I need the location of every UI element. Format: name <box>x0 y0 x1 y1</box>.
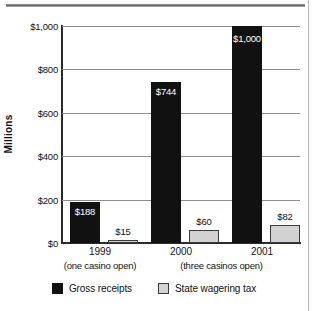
gridline-600 <box>62 113 300 114</box>
y-tick-200: $200 <box>2 194 58 205</box>
gridline-1000 <box>62 26 300 27</box>
y-tick-0: $0 <box>2 238 58 249</box>
x-sublabel-one-casino: (one casino open) <box>62 260 138 271</box>
y-tick-800: $800 <box>2 64 58 75</box>
bar-label-state-wagering-tax-2001: $82 <box>270 211 300 222</box>
gray-square-swatch-icon <box>158 283 169 294</box>
bar-state-wagering-tax-1999 <box>108 240 138 243</box>
bar-label-state-wagering-tax-1999: $15 <box>108 226 138 237</box>
page-top-rule <box>6 4 305 7</box>
page-right-border <box>308 0 309 311</box>
y-tick-400: $400 <box>2 151 58 162</box>
bar-state-wagering-tax-2000 <box>189 230 219 243</box>
x-category-1999: 1999 <box>62 246 138 257</box>
bar-gross-receipts-2000 <box>151 82 181 243</box>
bar-gross-receipts-2001 <box>232 26 262 243</box>
black-square-swatch-icon <box>52 283 63 294</box>
x-sublabel-three-casinos: (three casinos open) <box>143 260 300 271</box>
plot-area: $188 $15 $744 $60 $1,000 $82 <box>62 26 300 243</box>
chart-legend: Gross receipts State wagering tax <box>0 283 308 294</box>
y-tick-1000: $1,000 <box>2 21 58 32</box>
bar-label-gross-receipts-1999: $188 <box>70 206 100 217</box>
bar-label-gross-receipts-2000: $744 <box>151 86 181 97</box>
legend-item-gross-receipts: Gross receipts <box>52 283 132 294</box>
bar-label-gross-receipts-2001: $1,000 <box>232 33 262 44</box>
legend-label-gross-receipts: Gross receipts <box>69 283 132 294</box>
gridline-800 <box>62 69 300 70</box>
x-category-2000: 2000 <box>143 246 219 257</box>
chart-page: Millions $1,000 $800 $600 $400 $200 $0 $… <box>0 0 319 311</box>
y-tick-600: $600 <box>2 107 58 118</box>
gridline-400 <box>62 156 300 157</box>
bar-state-wagering-tax-2001 <box>270 225 300 243</box>
legend-label-state-wagering-tax: State wagering tax <box>175 283 256 294</box>
legend-item-state-wagering-tax: State wagering tax <box>158 283 256 294</box>
y-axis-ticks: $1,000 $800 $600 $400 $200 $0 <box>0 26 58 243</box>
x-category-2001: 2001 <box>224 246 300 257</box>
bar-label-state-wagering-tax-2000: $60 <box>189 216 219 227</box>
gridline-200 <box>62 200 300 201</box>
